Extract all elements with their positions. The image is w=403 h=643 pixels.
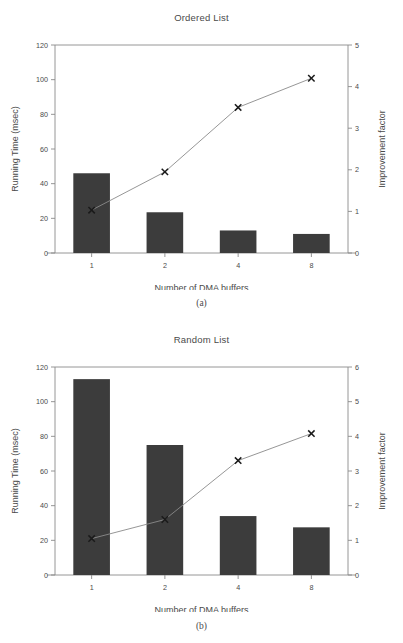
- x-tick-label: 4: [236, 583, 240, 592]
- x-tick-label: 2: [163, 583, 167, 592]
- x-tick-label: 8: [309, 261, 313, 270]
- improvement-factor-line: [92, 78, 312, 210]
- y-tick-label-right: 6: [355, 363, 359, 372]
- y-tick-label-left: 20: [40, 536, 48, 545]
- y-tick-label-right: 0: [355, 249, 359, 258]
- y-tick-label-right: 4: [355, 432, 359, 441]
- x-tick-label: 1: [90, 583, 94, 592]
- improvement-factor-line: [92, 434, 312, 539]
- y-tick-label-left: 120: [36, 41, 48, 50]
- y-tick-label-right: 3: [355, 467, 359, 476]
- y-tick-label-left: 0: [44, 571, 48, 580]
- chart-panel-a: Ordered List 0204060801001200123451248Nu…: [0, 0, 403, 320]
- bar: [73, 173, 110, 253]
- y-tick-label-left: 120: [36, 363, 48, 372]
- bar: [293, 527, 330, 575]
- y-tick-label-right: 1: [355, 536, 359, 545]
- y-tick-label-right: 2: [355, 501, 359, 510]
- marker-x-icon: [162, 169, 168, 175]
- marker-x-icon: [235, 104, 241, 110]
- chart-panel-b: Random List 02040608010012001234561248Nu…: [0, 322, 403, 643]
- bar: [73, 379, 110, 575]
- x-tick-label: 1: [90, 261, 94, 270]
- y-tick-label-left: 0: [44, 249, 48, 258]
- x-tick-label: 4: [236, 261, 240, 270]
- y-tick-label-left: 100: [36, 397, 48, 406]
- marker-x-icon: [235, 457, 241, 463]
- chart-plot-a: 0204060801001200123451248Number of DMA b…: [0, 0, 403, 290]
- y-tick-label-left: 20: [40, 214, 48, 223]
- y-tick-label-left: 60: [40, 467, 48, 476]
- bar: [220, 230, 257, 253]
- figure-container: Ordered List 0204060801001200123451248Nu…: [0, 0, 403, 643]
- panel-caption-b: (b): [0, 621, 403, 631]
- x-axis-title: Number of DMA buffers: [155, 283, 249, 290]
- x-axis-title: Number of DMA buffers: [155, 605, 249, 612]
- y-axis-title-right: Improvement factor: [377, 110, 387, 188]
- y-tick-label-right: 2: [355, 165, 359, 174]
- y-axis-title-right: Improvement factor: [377, 432, 387, 510]
- bar: [293, 234, 330, 253]
- y-tick-label-left: 80: [40, 110, 48, 119]
- x-tick-label: 2: [163, 261, 167, 270]
- y-tick-label-left: 40: [40, 179, 48, 188]
- marker-x-icon: [308, 430, 314, 436]
- y-axis-title-left: Running Time (msec): [10, 106, 20, 192]
- bar: [147, 445, 184, 575]
- y-tick-label-right: 3: [355, 124, 359, 133]
- y-tick-label-right: 1: [355, 207, 359, 216]
- y-tick-label-left: 60: [40, 145, 48, 154]
- y-tick-label-right: 0: [355, 571, 359, 580]
- y-tick-label-left: 40: [40, 501, 48, 510]
- x-tick-label: 8: [309, 583, 313, 592]
- bar: [220, 516, 257, 575]
- y-tick-label-left: 100: [36, 75, 48, 84]
- y-tick-label-right: 5: [355, 397, 359, 406]
- y-axis-title-left: Running Time (msec): [10, 428, 20, 514]
- y-tick-label-left: 80: [40, 432, 48, 441]
- panel-caption-a: (a): [0, 298, 403, 308]
- marker-x-icon: [308, 75, 314, 81]
- y-tick-label-right: 4: [355, 82, 359, 91]
- bar: [147, 212, 184, 253]
- chart-plot-b: 02040608010012001234561248Number of DMA …: [0, 322, 403, 612]
- y-tick-label-right: 5: [355, 41, 359, 50]
